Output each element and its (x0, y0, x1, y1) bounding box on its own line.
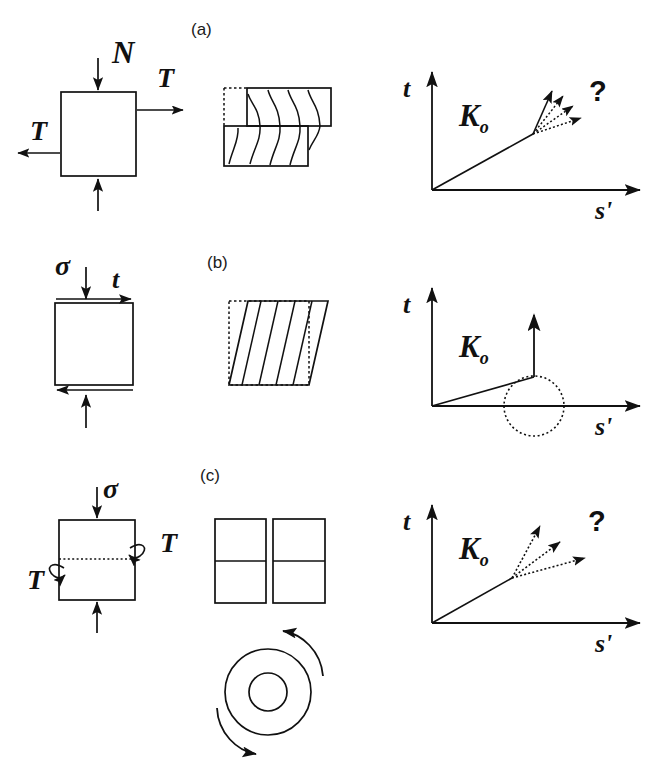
load-label-b-shear: t (112, 265, 119, 295)
ko-label-c-main: K (459, 531, 480, 566)
ko-label-a-main: K (459, 98, 480, 133)
query-label-a: ? (589, 75, 607, 108)
axis-label-c-t: t (403, 507, 410, 537)
axis-label-a-t: t (403, 74, 410, 104)
ko-label-c: Ko (459, 531, 489, 571)
load-label-a-shear-right: T (157, 62, 174, 94)
axis-label-c-s: s' (595, 629, 612, 659)
load-label-a-normal: N (112, 35, 134, 71)
figure-canvas: (a) (b) (c) (0, 0, 659, 774)
load-label-b-normal: σ (55, 250, 70, 282)
torsion-rings-sketch (217, 631, 323, 754)
panel-label-c: (c) (200, 466, 220, 486)
axis-label-b-t: t (403, 290, 410, 320)
stress-element-c (49, 487, 144, 633)
deformation-sketch-b (229, 301, 328, 385)
load-label-c-torsion-right: T (160, 527, 177, 559)
load-label-c-torsion-left: T (27, 564, 44, 596)
deformation-sketch-c (215, 519, 325, 603)
ko-label-b-sub: o (480, 348, 489, 368)
ko-label-b: Ko (459, 329, 489, 369)
axis-label-a-s: s' (595, 196, 612, 226)
axis-label-b-s: s' (595, 412, 612, 442)
panel-label-b: (b) (207, 253, 228, 273)
ko-label-b-main: K (459, 329, 480, 364)
deformation-sketch-a (224, 88, 331, 166)
stress-element-b (55, 267, 133, 428)
ko-label-a-sub: o (480, 117, 489, 137)
ko-label-a: Ko (459, 98, 489, 138)
panel-label-a: (a) (191, 20, 212, 40)
query-label-c: ? (588, 505, 606, 538)
load-label-c-normal: σ (103, 473, 118, 505)
ko-label-c-sub: o (480, 550, 489, 570)
load-label-a-shear-left: T (30, 115, 47, 147)
